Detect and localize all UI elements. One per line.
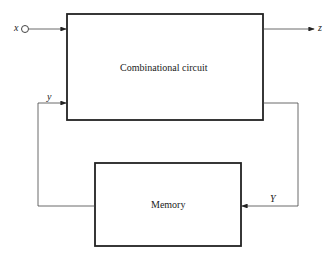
feedback-Y-line	[242, 103, 298, 206]
diagram-canvas	[0, 0, 330, 258]
feedback-Y-label: Y	[270, 193, 276, 204]
feedback-y-label: y	[47, 91, 51, 102]
input-x-label: x	[14, 22, 18, 33]
output-z-label: z	[318, 22, 322, 33]
combinational-circuit-label: Combinational circuit	[120, 62, 207, 73]
input-terminal-icon	[22, 26, 29, 33]
memory-label: Memory	[151, 199, 185, 210]
